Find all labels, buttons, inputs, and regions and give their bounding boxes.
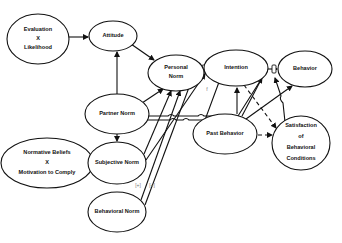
svg-text:Conditions: Conditions (286, 155, 315, 161)
svg-text:Attitude: Attitude (102, 32, 123, 38)
node-subjective-norm[interactable]: Subjective Norm (88, 142, 146, 184)
svg-text:Behavior: Behavior (293, 65, 318, 71)
svg-text:Behavioral: Behavioral (287, 144, 316, 150)
node-behavioral-norm[interactable]: Behavioral Norm (88, 192, 146, 232)
edge-label-plus: [+] (135, 182, 141, 188)
node-normative-beliefs-motivation[interactable]: Normative Beliefs X Motivation to Comply (1, 138, 93, 188)
diagram-canvas: f f [+] [+] Evaluation X Likelihood Atti… (0, 0, 342, 243)
svg-text:of: of (298, 133, 303, 139)
svg-text:X: X (45, 159, 49, 165)
node-behavior[interactable]: Behavior (278, 51, 332, 87)
svg-text:Intention: Intention (224, 64, 248, 70)
edge-satisfaction-behavior-mod (275, 78, 285, 122)
node-attitude[interactable]: Attitude (89, 21, 137, 51)
moderator-box (272, 65, 276, 73)
svg-text:Personal: Personal (164, 64, 188, 70)
node-partner-norm[interactable]: Partner Norm (85, 94, 149, 134)
svg-text:Normative Beliefs: Normative Beliefs (23, 149, 70, 155)
svg-text:Motivation to Comply: Motivation to Comply (19, 169, 77, 175)
svg-text:Likelihood: Likelihood (24, 44, 53, 50)
svg-text:Behavioral Norm: Behavioral Norm (95, 208, 140, 214)
node-satisfaction-behavioral-conditions[interactable]: Satisfaction of Behavioral Conditions (272, 116, 330, 170)
node-intention[interactable]: Intention (204, 50, 268, 86)
edge-label-plus: [+] (149, 182, 155, 188)
svg-text:Subjective Norm: Subjective Norm (95, 159, 139, 165)
edge-partner-personal (142, 89, 163, 103)
node-evaluation-likelihood[interactable]: Evaluation X Likelihood (7, 14, 69, 64)
svg-text:X: X (36, 35, 40, 41)
svg-text:Past Behavior: Past Behavior (206, 130, 244, 136)
edge-label-f: f (206, 86, 208, 92)
node-personal-norm[interactable]: Personal Norm (148, 55, 204, 91)
edge-subjective-personal (144, 91, 171, 154)
node-past-behavior[interactable]: Past Behavior (193, 114, 257, 154)
edge-past-behavior (246, 86, 292, 119)
svg-text:Norm: Norm (169, 73, 184, 79)
svg-text:Evaluation: Evaluation (24, 26, 53, 32)
svg-text:Partner Norm: Partner Norm (99, 110, 135, 116)
svg-text:Satisfaction: Satisfaction (285, 122, 317, 128)
edge-attitude-personal (131, 44, 154, 60)
